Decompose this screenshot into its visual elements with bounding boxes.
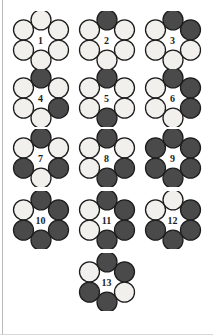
ring-vertex-dark[interactable]	[180, 98, 200, 118]
ring-cluster[interactable]: 12	[140, 191, 206, 249]
ring-vertex-light[interactable]	[145, 20, 165, 40]
ring-vertex-light[interactable]	[114, 78, 134, 98]
ring-vertex-dark[interactable]	[79, 282, 99, 302]
ring-cluster[interactable]: 1	[8, 11, 74, 69]
ring-vertex-dark[interactable]	[97, 129, 117, 148]
ring-vertex-light[interactable]	[13, 98, 33, 118]
ring-vertex-dark[interactable]	[97, 292, 117, 311]
ring-vertex-dark[interactable]	[13, 158, 33, 178]
ring-vertex-light[interactable]	[145, 78, 165, 98]
ring-vertex-dark[interactable]	[13, 220, 33, 240]
ring-vertex-light[interactable]	[145, 98, 165, 118]
ring-vertex-dark[interactable]	[31, 129, 51, 148]
ring-vertex-dark[interactable]	[48, 220, 68, 240]
ring-vertex-light[interactable]	[13, 78, 33, 98]
ring-cluster[interactable]: 8	[74, 129, 140, 187]
ring-vertex-light[interactable]	[180, 40, 200, 60]
ring-vertex-light[interactable]	[79, 138, 99, 158]
ring-vertex-dark[interactable]	[180, 158, 200, 178]
ring-row-2: 456	[0, 69, 213, 127]
ring-vertex-light[interactable]	[163, 191, 183, 210]
ring-vertex-dark[interactable]	[97, 108, 117, 127]
ring-vertex-dark[interactable]	[180, 220, 200, 240]
ring-vertex-dark[interactable]	[97, 253, 117, 272]
ring-vertex-dark[interactable]	[180, 78, 200, 98]
ring-vertex-dark[interactable]	[48, 200, 68, 220]
ring-vertex-light[interactable]	[114, 20, 134, 40]
ring-cluster[interactable]: 5	[74, 69, 140, 127]
ring-vertex-light[interactable]	[48, 40, 68, 60]
ring-vertex-light[interactable]	[114, 40, 134, 60]
ring-graphic	[140, 11, 206, 69]
ring-vertex-dark[interactable]	[31, 69, 51, 88]
ring-cluster[interactable]: 4	[8, 69, 74, 127]
ring-cluster[interactable]: 13	[74, 253, 140, 311]
ring-vertex-dark[interactable]	[97, 191, 117, 210]
ring-vertex-dark[interactable]	[97, 11, 117, 30]
ring-vertex-light[interactable]	[13, 138, 33, 158]
ring-cluster[interactable]: 2	[74, 11, 140, 69]
ring-vertex-light[interactable]	[79, 220, 99, 240]
ring-vertex-light[interactable]	[114, 282, 134, 302]
figure-page: 123 456 789 101112 13	[0, 0, 213, 335]
ring-vertex-light[interactable]	[114, 98, 134, 118]
ring-vertex-dark[interactable]	[97, 168, 117, 187]
ring-vertex-dark[interactable]	[48, 98, 68, 118]
ring-vertex-light[interactable]	[13, 40, 33, 60]
ring-vertex-dark[interactable]	[163, 11, 183, 30]
ring-vertex-dark[interactable]	[114, 200, 134, 220]
ring-cluster[interactable]: 6	[140, 69, 206, 127]
ring-vertex-light[interactable]	[31, 168, 51, 187]
ring-graphic	[140, 69, 206, 127]
ring-vertex-dark[interactable]	[145, 220, 165, 240]
ring-vertex-dark[interactable]	[163, 129, 183, 148]
ring-graphic	[8, 69, 74, 127]
ring-vertex-light[interactable]	[97, 50, 117, 69]
ring-vertex-light[interactable]	[13, 200, 33, 220]
ring-vertex-dark[interactable]	[114, 220, 134, 240]
ring-cluster[interactable]: 11	[74, 191, 140, 249]
ring-vertex-light[interactable]	[48, 78, 68, 98]
ring-vertex-dark[interactable]	[163, 230, 183, 249]
ring-vertex-light[interactable]	[31, 108, 51, 127]
ring-vertex-dark[interactable]	[31, 191, 51, 210]
ring-vertex-dark[interactable]	[180, 20, 200, 40]
ring-vertex-dark[interactable]	[180, 200, 200, 220]
ring-vertex-light[interactable]	[48, 20, 68, 40]
ring-cluster[interactable]: 3	[140, 11, 206, 69]
ring-vertex-dark[interactable]	[145, 158, 165, 178]
ring-graphic	[8, 129, 74, 187]
ring-vertex-dark[interactable]	[180, 138, 200, 158]
ring-vertex-light[interactable]	[163, 108, 183, 127]
ring-vertex-light[interactable]	[31, 50, 51, 69]
ring-vertex-light[interactable]	[79, 20, 99, 40]
ring-vertex-dark[interactable]	[163, 69, 183, 88]
ring-vertex-light[interactable]	[31, 11, 51, 30]
ring-graphic	[8, 191, 74, 249]
ring-vertex-light[interactable]	[13, 20, 33, 40]
ring-vertex-dark[interactable]	[97, 230, 117, 249]
ring-vertex-light[interactable]	[145, 200, 165, 220]
ring-vertex-light[interactable]	[79, 158, 99, 178]
ring-vertex-light[interactable]	[48, 138, 68, 158]
ring-vertex-dark[interactable]	[114, 158, 134, 178]
ring-cluster[interactable]: 10	[8, 191, 74, 249]
ring-vertex-dark[interactable]	[31, 230, 51, 249]
ring-vertex-dark[interactable]	[114, 262, 134, 282]
ring-cluster[interactable]: 9	[140, 129, 206, 187]
ring-vertex-light[interactable]	[79, 98, 99, 118]
ring-vertex-light[interactable]	[79, 78, 99, 98]
ring-vertex-light[interactable]	[79, 200, 99, 220]
ring-vertex-dark[interactable]	[97, 69, 117, 88]
ring-vertex-dark[interactable]	[145, 138, 165, 158]
ring-vertex-dark[interactable]	[48, 158, 68, 178]
ring-vertex-light[interactable]	[79, 262, 99, 282]
ring-vertex-light[interactable]	[79, 40, 99, 60]
ring-vertex-light[interactable]	[145, 40, 165, 60]
top-cutoff-caption	[8, 0, 208, 9]
ring-vertex-light[interactable]	[114, 138, 134, 158]
ring-vertex-light[interactable]	[163, 50, 183, 69]
ring-vertex-dark[interactable]	[163, 168, 183, 187]
ring-graphic	[8, 11, 74, 69]
ring-cluster[interactable]: 7	[8, 129, 74, 187]
